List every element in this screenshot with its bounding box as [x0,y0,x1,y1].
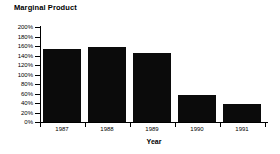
x-axis-title: Year [40,138,268,145]
bar [43,49,81,122]
x-axis-tick-mark [265,123,266,127]
bar [133,53,171,122]
x-axis-tick-label: 1989 [129,126,175,132]
y-axis-tick-label: 200% [18,24,33,30]
y-axis-tick-label: 20% [21,110,33,116]
y-axis-tick-label: 120% [18,62,33,68]
bar [223,104,261,122]
x-axis-tick-label: 1987 [39,126,85,132]
y-axis-tick-label: 180% [18,34,33,40]
y-axis-tick-label: 60% [21,91,33,97]
y-axis-tick-label: 140% [18,53,33,59]
bar-series [40,27,267,122]
bar [178,95,216,122]
bar [88,47,126,122]
y-axis-tick-label: 100% [18,72,33,78]
y-axis-tick-label: 0% [24,119,33,125]
marginal-product-bar-chart: Marginal Product 0%20%40%60%80%100%120%1… [0,0,280,154]
x-axis-tick-label: 1988 [84,126,130,132]
y-axis-tick-label: 160% [18,43,33,49]
x-axis-line [40,122,268,123]
y-axis-tick-label: 40% [21,100,33,106]
x-axis-tick-label: 1990 [174,126,220,132]
y-axis-tick-label: 80% [21,81,33,87]
y-axis-labels: 0%20%40%60%80%100%120%140%160%180%200% [0,0,33,154]
x-axis-tick-label: 1991 [219,126,265,132]
